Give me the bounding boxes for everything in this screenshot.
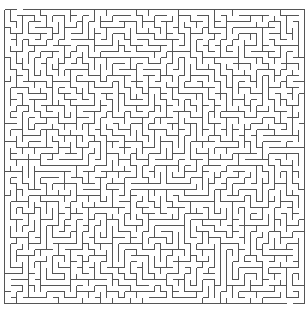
maze-board — [0, 0, 308, 309]
maze-wall-path — [5, 10, 305, 304]
maze-walls — [5, 10, 305, 304]
